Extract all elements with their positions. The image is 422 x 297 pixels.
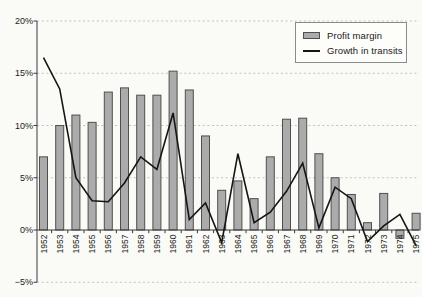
legend-item-profit-margin: Profit margin bbox=[303, 28, 400, 43]
profit-margin-bar bbox=[56, 126, 64, 231]
x-axis-year-label: 1975 bbox=[411, 234, 421, 253]
x-axis-year-label: 1966 bbox=[265, 234, 275, 253]
x-axis-year-label: 1971 bbox=[346, 234, 356, 253]
line-swatch-icon bbox=[303, 50, 320, 52]
x-axis-year-label: 1954 bbox=[71, 234, 81, 253]
x-axis-year-label: 1968 bbox=[298, 234, 308, 253]
profit-margin-bar bbox=[331, 178, 339, 230]
y-axis-tick-label: −5% bbox=[15, 277, 33, 287]
y-axis-tick-label: 15% bbox=[15, 68, 33, 78]
x-axis-year-label: 1958 bbox=[136, 234, 146, 253]
x-axis-year-label: 1957 bbox=[120, 234, 130, 253]
profit-margin-bar bbox=[364, 223, 372, 230]
profit-margin-bar bbox=[153, 95, 161, 230]
profit-margin-bar bbox=[283, 119, 291, 230]
profit-margin-bar bbox=[250, 199, 258, 230]
profit-margin-bar bbox=[202, 136, 210, 230]
profit-margin-bar bbox=[88, 122, 96, 230]
legend-item-growth-in-transits: Growth in transits bbox=[303, 43, 400, 58]
x-axis-year-label: 1955 bbox=[87, 234, 97, 253]
profit-margin-bar bbox=[104, 92, 112, 230]
profit-margin-bar bbox=[266, 157, 274, 230]
y-axis-tick-label: 5% bbox=[20, 173, 33, 183]
chart-figure: 20%15%10%5%0%−5%195219531954195519561957… bbox=[0, 0, 422, 297]
growth-in-transits-line bbox=[44, 58, 417, 246]
profit-margin-bar bbox=[40, 157, 48, 230]
x-axis-year-label: 1962 bbox=[201, 234, 211, 253]
legend-label-profit-margin: Profit margin bbox=[327, 30, 382, 41]
x-axis-year-label: 1961 bbox=[184, 234, 194, 253]
bar-swatch-icon bbox=[303, 32, 320, 39]
chart-legend: Profit margin Growth in transits bbox=[295, 22, 407, 63]
x-axis-year-label: 1952 bbox=[39, 234, 49, 253]
x-axis-year-label: 1964 bbox=[233, 234, 243, 253]
x-axis-year-label: 1965 bbox=[249, 234, 259, 253]
y-axis-tick-label: 0% bbox=[20, 225, 33, 235]
x-axis-year-label: 1969 bbox=[314, 234, 324, 253]
x-axis-year-label: 1974 bbox=[395, 234, 405, 253]
profit-margin-bar bbox=[185, 90, 193, 230]
y-axis-tick-label: 20% bbox=[15, 16, 33, 26]
legend-label-growth-in-transits: Growth in transits bbox=[327, 45, 403, 56]
x-axis-year-label: 1959 bbox=[152, 234, 162, 253]
x-axis-year-label: 1960 bbox=[168, 234, 178, 253]
x-axis-year-label: 1963 bbox=[217, 234, 227, 253]
profit-margin-bar bbox=[72, 115, 80, 230]
x-axis-year-label: 1953 bbox=[55, 234, 65, 253]
x-axis-year-label: 1967 bbox=[282, 234, 292, 253]
x-axis-year-label: 1956 bbox=[103, 234, 113, 253]
x-axis-year-label: 1970 bbox=[330, 234, 340, 253]
profit-margin-bar bbox=[412, 213, 420, 230]
y-axis-tick-label: 10% bbox=[15, 121, 33, 131]
x-axis-year-label: 1972 bbox=[363, 234, 373, 253]
x-axis-year-label: 1973 bbox=[379, 234, 389, 253]
profit-margin-bar bbox=[234, 181, 242, 230]
profit-margin-bar bbox=[121, 88, 129, 230]
profit-margin-bar bbox=[169, 71, 177, 230]
